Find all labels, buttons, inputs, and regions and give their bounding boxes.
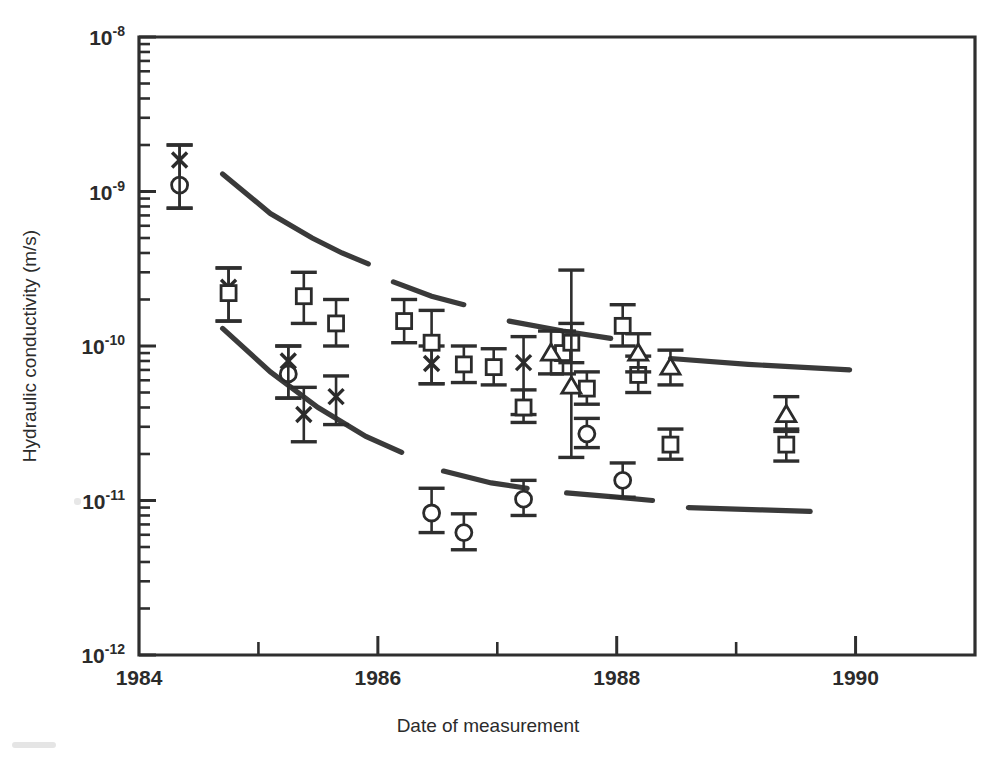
y-tick-label: 10-12 [81, 641, 125, 667]
data-point-circle [451, 514, 477, 550]
data-point-triangle [625, 334, 651, 372]
y-tick-label: 10-9 [89, 178, 125, 204]
upper-bound-curve [223, 174, 369, 264]
square-marker [397, 314, 412, 329]
lower-bound-curve [223, 328, 402, 452]
square-marker [221, 286, 236, 301]
figure-container: 10-1210-1110-1010-910-8 1984198619881990… [0, 0, 996, 767]
data-point-square [657, 429, 683, 459]
x-tick-label: 1988 [593, 666, 640, 689]
data-point-circle [610, 463, 636, 497]
triangle-marker [777, 406, 796, 422]
data-point-triangle [657, 350, 683, 385]
y-axis-ticks [139, 37, 156, 655]
square-marker [615, 318, 630, 333]
x-tick-label: 1984 [116, 666, 163, 689]
lower-bound-curve [688, 508, 810, 512]
square-marker [424, 335, 439, 350]
y-tick-label: 10-8 [89, 23, 125, 49]
data-point-circle [419, 488, 445, 532]
y-axis-tick-labels: 10-1210-1110-1010-910-8 [81, 23, 125, 667]
data-point-triangle [773, 397, 799, 432]
square-marker [456, 357, 471, 372]
circle-marker [615, 472, 631, 488]
square-marker [516, 400, 531, 415]
data-point-square [511, 390, 537, 423]
hydraulic-conductivity-chart: 10-1210-1110-1010-910-8 1984198619881990… [0, 0, 996, 767]
y-tick-label: 10-10 [81, 332, 125, 358]
square-marker [779, 437, 794, 452]
scan-artifact [12, 742, 56, 748]
lower-bound-curve [567, 493, 653, 501]
data-point-square [481, 349, 507, 385]
x-axis-title: Date of measurement [397, 715, 580, 736]
data-point-cross [323, 376, 349, 425]
square-marker [296, 289, 311, 304]
data-point-square [773, 429, 799, 461]
circle-marker [424, 505, 440, 521]
data-point-square [610, 305, 636, 346]
data-point-square [216, 268, 242, 321]
x-axis-ticks [258, 636, 855, 655]
data-point-cross [291, 387, 317, 441]
data-point-square [391, 299, 417, 342]
x-tick-label: 1990 [832, 666, 879, 689]
data-point-square [291, 272, 317, 323]
square-marker [486, 360, 501, 375]
scan-artifact-secondary [74, 498, 81, 505]
data-point-square [451, 346, 477, 383]
data-point-square [323, 299, 349, 346]
x-axis-tick-labels: 1984198619881990 [116, 666, 879, 689]
square-marker [663, 437, 678, 452]
circle-marker [516, 491, 532, 507]
data-point-cross [167, 145, 193, 208]
y-tick-label: 10-11 [82, 487, 125, 513]
circle-marker [579, 426, 595, 442]
data-point-circle [574, 418, 600, 447]
y-axis-title: Hydraulic conductivity (m/s) [19, 230, 40, 462]
upper-bound-curve [671, 359, 850, 370]
x-tick-label: 1986 [354, 666, 401, 689]
circle-marker [456, 525, 472, 541]
square-marker [329, 316, 344, 331]
trend-curves-group [223, 174, 850, 512]
